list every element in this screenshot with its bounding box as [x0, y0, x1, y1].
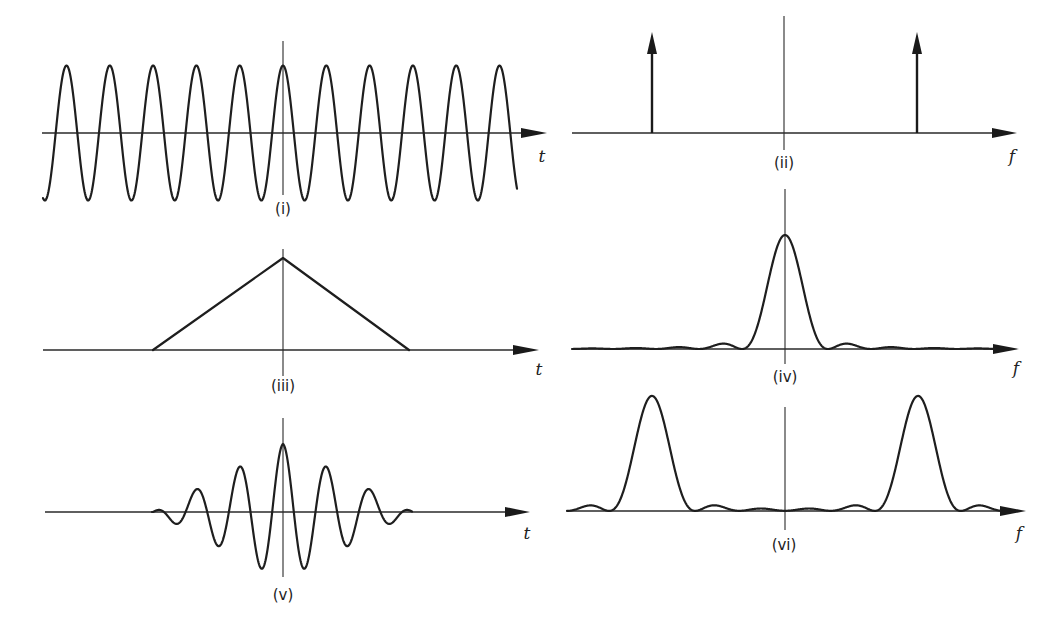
triangle-window [153, 258, 409, 350]
axis-arrow-icon [1000, 506, 1026, 516]
axis-arrow-icon [992, 128, 1017, 138]
panel-v: t (v) [45, 418, 531, 604]
axis-variable-label: t [536, 359, 543, 379]
sinc-squared-spectrum [572, 235, 995, 349]
panel-label: (vi) [772, 536, 797, 554]
axis-variable-label: f [1014, 523, 1025, 543]
panel-label: (ii) [774, 154, 794, 172]
panel-i: t (i) [42, 41, 547, 218]
figure-canvas: t (i) f (ii) t (iii) f (iv) t [0, 0, 1061, 623]
panel-label: (iii) [271, 377, 295, 395]
axis-variable-label: f [1011, 358, 1022, 378]
panel-ii: f (ii) [572, 16, 1018, 172]
panel-iii: t (iii) [43, 249, 543, 395]
shifted-sinc-squared-spectrum [567, 396, 1000, 511]
panel-vi: f (vi) [567, 396, 1026, 554]
impulse-arrow-icon [647, 32, 657, 54]
axis-variable-label: f [1007, 146, 1018, 166]
windowed-cosine [152, 444, 412, 569]
axis-variable-label: t [539, 146, 546, 166]
panel-iv: f (iv) [572, 189, 1022, 386]
panel-label: (iv) [773, 368, 798, 386]
impulse-arrow-icon [912, 32, 922, 54]
axis-arrow-icon [513, 345, 539, 355]
axis-arrow-icon [521, 128, 547, 138]
panel-label: (v) [273, 586, 294, 604]
axis-arrow-icon [505, 507, 530, 517]
panel-label: (i) [275, 200, 291, 218]
axis-arrow-icon [993, 344, 1019, 354]
axis-variable-label: t [524, 523, 531, 543]
